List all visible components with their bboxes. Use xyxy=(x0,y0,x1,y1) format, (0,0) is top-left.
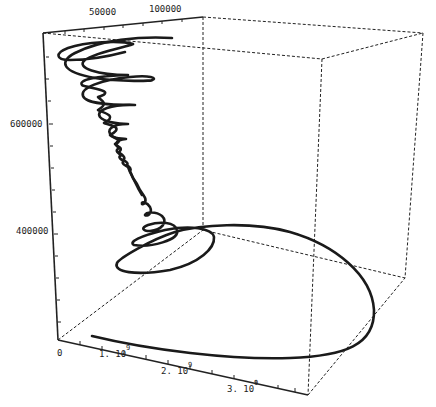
z-tick-labels: 600000 400000 xyxy=(10,119,49,236)
z-tick-label: 400000 xyxy=(16,226,49,236)
x-tick-label: 0 xyxy=(57,348,62,358)
z-axis xyxy=(43,33,58,340)
axes xyxy=(43,17,308,395)
y-tick-label: 100000 xyxy=(149,4,182,14)
trajectory-upper-spiral xyxy=(65,38,172,195)
trajectory-curve xyxy=(58,42,374,358)
3d-line-plot: 50000 100000 600000 400000 0 1. 109 2. 1… xyxy=(0,0,436,407)
y-tick-label: 50000 xyxy=(89,7,116,17)
x-tick-labels: 0 1. 109 2. 109 3. 109 xyxy=(57,344,258,394)
x-tick-label: 1. 109 xyxy=(99,344,130,359)
z-tick-label: 600000 xyxy=(10,119,43,129)
y-tick-labels: 50000 100000 xyxy=(89,4,182,17)
